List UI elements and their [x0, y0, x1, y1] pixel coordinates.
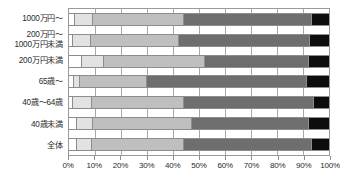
bar-segment [91, 139, 183, 150]
bar-segment [309, 35, 329, 46]
bar-segment [76, 118, 93, 129]
bar-segment [81, 56, 103, 67]
category-label: 1000万円～ [0, 8, 66, 29]
axis-tick [225, 156, 226, 160]
axis-tick-label: 50% [191, 161, 206, 170]
axis-tick-label: 0% [62, 161, 73, 170]
bar-segment [313, 97, 329, 108]
axis-tick [199, 156, 200, 160]
axis-tick-label: 60% [217, 161, 232, 170]
category-label: 全体 [0, 135, 66, 156]
bar-segment [178, 35, 309, 46]
axis-tick [68, 156, 69, 160]
axis-tick [251, 156, 252, 160]
bar-segment [306, 76, 329, 87]
bar-segment [308, 56, 329, 67]
category-label: 65歳～ [0, 71, 66, 92]
bar-row [69, 75, 329, 88]
axis-tick-label: 20% [113, 161, 128, 170]
bar-segment [69, 56, 81, 67]
bar-segment [72, 35, 90, 46]
bar-row [69, 13, 329, 26]
axis-tick [330, 156, 331, 160]
axis-tick [278, 156, 279, 160]
category-label: 200万円未満 [0, 50, 66, 71]
bar-segment [204, 56, 308, 67]
axis-tick-label: 10% [86, 161, 101, 170]
bar-segment [79, 76, 145, 87]
stacked-bar-chart: 1000万円～200万円～ 1000万円未満200万円未満65歳～40歳～64歳… [0, 0, 340, 178]
plot-area [68, 8, 330, 156]
axis-tick-label: 70% [244, 161, 259, 170]
bar-segment [311, 14, 329, 25]
axis-tick [304, 156, 305, 160]
value-axis: 0%10%20%30%40%50%60%70%80%90%100% [68, 156, 330, 178]
axis-tick-label: 100% [320, 161, 340, 170]
bar-row [69, 117, 329, 130]
bar-row [69, 55, 329, 68]
axis-tick-label: 30% [139, 161, 154, 170]
axis-tick [173, 156, 174, 160]
bar-segment [72, 97, 92, 108]
bar-segment [146, 76, 306, 87]
bar-segment [183, 97, 313, 108]
category-axis-labels: 1000万円～200万円～ 1000万円未満200万円未満65歳～40歳～64歳… [0, 8, 66, 156]
bar-segment [92, 118, 191, 129]
axis-tick-label: 90% [296, 161, 311, 170]
category-label: 40歳～64歳 [0, 93, 66, 114]
bar-segment [76, 139, 92, 150]
bar-row [69, 138, 329, 151]
axis-tick-label: 80% [270, 161, 285, 170]
bar-segment [183, 14, 310, 25]
bar-segment [311, 139, 329, 150]
bar-row [69, 34, 329, 47]
bar-segment [91, 97, 183, 108]
bar-segment [92, 14, 183, 25]
axis-tick [147, 156, 148, 160]
bar-segment [191, 118, 308, 129]
axis-tick [120, 156, 121, 160]
bar-segment [74, 14, 92, 25]
bar-row [69, 96, 329, 109]
category-label: 40歳未満 [0, 114, 66, 135]
bar-segment [103, 56, 204, 67]
axis-tick-label: 40% [165, 161, 180, 170]
bar-series-container [69, 9, 329, 155]
axis-tick [94, 156, 95, 160]
bar-segment [183, 139, 310, 150]
bar-segment [308, 118, 329, 129]
category-label: 200万円～ 1000万円未満 [0, 29, 66, 50]
bar-segment [90, 35, 178, 46]
